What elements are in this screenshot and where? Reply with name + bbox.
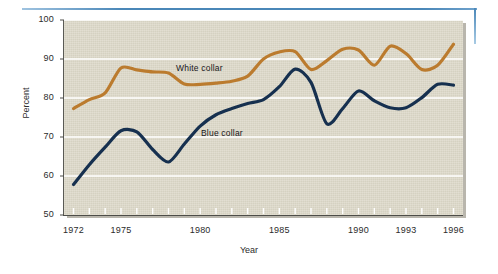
y-tick-label: 60 bbox=[28, 170, 54, 180]
y-tick-label: 90 bbox=[28, 53, 54, 63]
y-tick-label: 80 bbox=[28, 92, 54, 102]
x-tick-label: 1990 bbox=[339, 225, 379, 235]
y-tickmarks-group bbox=[60, 20, 64, 215]
y-tick-label: 70 bbox=[28, 131, 54, 141]
x-tick-label: 1980 bbox=[180, 225, 220, 235]
x-tick-label: 1985 bbox=[259, 225, 299, 235]
x-tick-label: 1993 bbox=[386, 225, 426, 235]
chart-figure: Percent Year 5060708090100 1972197519801… bbox=[0, 0, 498, 274]
x-tick-label: 1996 bbox=[434, 225, 474, 235]
x-axis-title: Year bbox=[0, 245, 498, 255]
series-label-blue-collar: Blue collar bbox=[201, 128, 243, 138]
x-tick-label: 1975 bbox=[101, 225, 141, 235]
series-paths-group bbox=[74, 44, 454, 184]
y-tick-label: 100 bbox=[28, 14, 54, 24]
x-tick-label: 1972 bbox=[54, 225, 94, 235]
y-tick-label: 50 bbox=[28, 209, 54, 219]
y-axis-title: Percent bbox=[21, 75, 31, 131]
x-tickmarks-group bbox=[74, 208, 454, 214]
series-label-white-collar: White collar bbox=[176, 63, 223, 73]
